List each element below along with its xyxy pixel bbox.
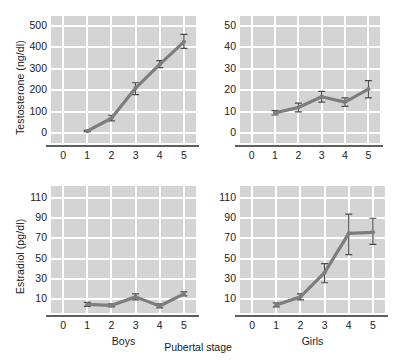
- x-tick-label: 4: [342, 319, 356, 331]
- x-tick-label: 5: [366, 319, 380, 331]
- y-tick-label: 90: [206, 211, 236, 223]
- x-tick-label: 0: [245, 319, 259, 331]
- x-axis-line: [235, 315, 388, 317]
- x-tick-label: 3: [318, 319, 332, 331]
- y-tick-label: 10: [206, 292, 236, 304]
- figure-panel-grid: Testosterone (ng/dl) 0100200300400500 01…: [0, 0, 396, 362]
- x-axis-caption: Pubertal stage: [0, 341, 396, 353]
- data-series-girls-estradiol: [0, 0, 396, 362]
- data-point: [322, 271, 326, 275]
- data-point: [298, 295, 302, 299]
- x-tick-label: 1: [269, 319, 283, 331]
- y-tick-label: 30: [206, 272, 236, 284]
- x-tick-label: 2: [293, 319, 307, 331]
- data-point: [274, 303, 278, 307]
- y-tick-label: 50: [206, 252, 236, 264]
- y-tick-label: 70: [206, 231, 236, 243]
- y-tick-label: 110: [206, 191, 236, 203]
- data-point: [371, 230, 375, 234]
- data-point: [347, 231, 351, 235]
